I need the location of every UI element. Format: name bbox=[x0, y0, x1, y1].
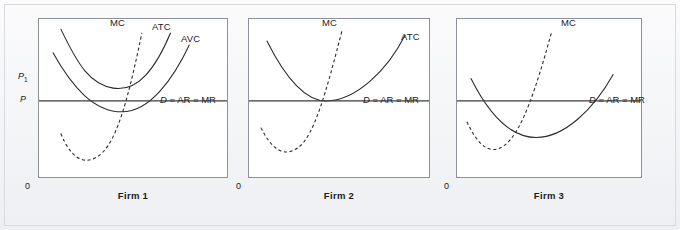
curve-mc-firm-2 bbox=[261, 31, 342, 152]
curve-atc-firm-3 bbox=[471, 74, 613, 137]
origin-label-firm-2: 0 bbox=[236, 181, 241, 191]
demand-label-firm-1: D = AR = MR bbox=[160, 94, 216, 105]
curve-atc-firm-2 bbox=[267, 35, 405, 101]
curve-label-mc-firm-3: MC bbox=[561, 17, 576, 28]
origin-label-firm-1: 0 bbox=[25, 181, 30, 191]
curve-mc-firm-3 bbox=[467, 31, 552, 150]
origin-label-firm-3: 0 bbox=[444, 181, 449, 191]
figure-container: MC ATC AVC P1 P D = AR = MR 0 Firm 1 MC … bbox=[0, 0, 680, 230]
curve-label-atc-firm-2: ATC bbox=[401, 31, 420, 42]
caption-firm-1: Firm 1 bbox=[38, 190, 228, 201]
demand-label-firm-3: D = AR = MR bbox=[589, 94, 645, 105]
curve-label-mc-firm-1: MC bbox=[110, 17, 125, 28]
curve-atc-firm-1 bbox=[61, 29, 171, 89]
axis-label-price-firm-1: P bbox=[20, 94, 26, 104]
curve-label-atc-firm-1: ATC bbox=[152, 21, 171, 32]
demand-label-firm-2: D = AR = MR bbox=[363, 94, 419, 105]
curve-label-mc-firm-2: MC bbox=[322, 17, 337, 28]
caption-firm-2: Firm 2 bbox=[248, 190, 430, 201]
caption-firm-3: Firm 3 bbox=[456, 190, 642, 201]
curve-label-avc-firm-1: AVC bbox=[181, 33, 200, 44]
axis-label-price-high-firm-1: P1 bbox=[18, 71, 28, 83]
